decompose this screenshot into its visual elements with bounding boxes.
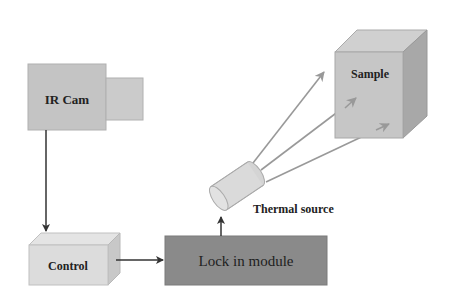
ir-cam-lens	[106, 78, 143, 120]
control-top-face	[29, 233, 120, 245]
thermal-source-label: Thermal source	[253, 202, 334, 216]
ir-cam-label: IR Cam	[45, 92, 90, 107]
sample-label: Sample	[351, 67, 390, 81]
control-label: Control	[48, 259, 88, 273]
sample-front-face	[335, 52, 403, 138]
diagram-canvas: IR Cam Control Lock in module Thermal so…	[0, 0, 454, 302]
lock-in-label: Lock in module	[199, 253, 294, 269]
sample-node: Sample	[335, 30, 427, 138]
control-node: Control	[29, 233, 120, 285]
lock-in-module-node: Lock in module	[165, 236, 327, 285]
ir-cam-node: IR Cam	[28, 64, 143, 130]
